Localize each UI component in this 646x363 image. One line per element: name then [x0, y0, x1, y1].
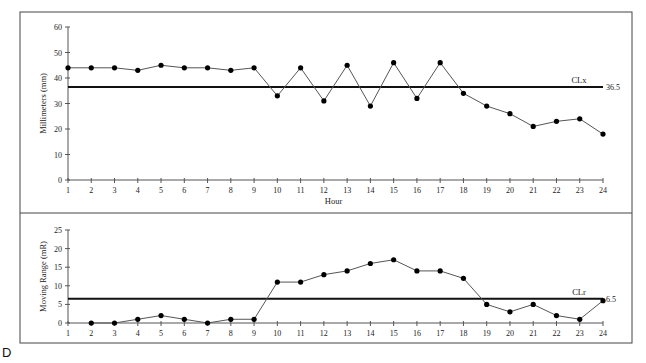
data-point — [298, 279, 303, 284]
data-point — [368, 261, 373, 266]
x-tick-label: 6 — [182, 186, 186, 195]
data-point — [321, 98, 326, 103]
y-tick-label: 25 — [54, 226, 62, 235]
x-tick-label: 19 — [483, 186, 491, 195]
x-tick-label: 7 — [206, 186, 210, 195]
data-point — [205, 65, 210, 70]
data-point — [484, 103, 489, 108]
data-point — [298, 65, 303, 70]
x-tick-label: 10 — [273, 186, 281, 195]
x-tick-label: 7 — [206, 329, 210, 338]
x-tick-label: 1 — [66, 329, 70, 338]
data-point — [368, 103, 373, 108]
x-tick-label: 11 — [297, 186, 305, 195]
figure-frame — [20, 12, 632, 343]
x-axis-title: Hour — [325, 196, 343, 206]
data-point — [182, 65, 187, 70]
data-point — [531, 302, 536, 307]
x-tick-label: 18 — [459, 329, 467, 338]
y-tick-label: 20 — [54, 245, 62, 254]
data-point — [65, 65, 70, 70]
x-tick-label: 24 — [599, 186, 607, 195]
data-point — [158, 313, 163, 318]
x-tick-label: 11 — [297, 329, 305, 338]
x-tick-label: 9 — [252, 329, 256, 338]
data-point — [414, 96, 419, 101]
panel-label: D — [2, 345, 11, 360]
data-point — [135, 68, 140, 73]
data-point — [438, 268, 443, 273]
data-point — [531, 124, 536, 129]
x-tick-label: 15 — [390, 186, 398, 195]
x-tick-label: 14 — [366, 329, 374, 338]
data-point — [414, 268, 419, 273]
x-tick-label: 4 — [136, 186, 140, 195]
y-tick-label: 10 — [54, 151, 62, 160]
y-tick-label: 50 — [54, 49, 62, 58]
y-tick-label: 60 — [54, 23, 62, 32]
data-point — [135, 317, 140, 322]
data-point — [600, 298, 605, 303]
x-tick-label: 12 — [320, 186, 328, 195]
x-tick-label: 17 — [436, 186, 444, 195]
data-point — [228, 317, 233, 322]
x-tick-label: 23 — [576, 186, 584, 195]
x-tick-label: 1 — [66, 186, 70, 195]
data-point — [251, 65, 256, 70]
x-tick-label: 5 — [159, 186, 163, 195]
data-point — [391, 257, 396, 262]
data-point — [321, 272, 326, 277]
data-point — [275, 93, 280, 98]
x-tick-label: 4 — [136, 329, 140, 338]
control-chart-figure: 0102030405060123456789101112131415161718… — [0, 0, 646, 363]
x-tick-label: 12 — [320, 329, 328, 338]
x-tick-label: 13 — [343, 186, 351, 195]
y-tick-label: 5 — [58, 300, 62, 309]
data-point — [461, 276, 466, 281]
data-point — [89, 65, 94, 70]
x-tick-label: 17 — [436, 329, 444, 338]
x-tick-label: 21 — [529, 186, 537, 195]
y-tick-label: 40 — [54, 74, 62, 83]
moving-range-chart: 0510152025123456789101112131415161718192… — [38, 226, 616, 338]
center-line-label: CLr — [572, 287, 586, 297]
x-tick-label: 8 — [229, 186, 233, 195]
series-line — [68, 63, 603, 134]
x-tick-label: 22 — [552, 329, 560, 338]
center-line-value: 36.5 — [606, 83, 620, 92]
data-point — [275, 279, 280, 284]
y-tick-label: 30 — [54, 100, 62, 109]
center-line-label: CLx — [571, 75, 587, 85]
x-tick-label: 21 — [529, 329, 537, 338]
data-point — [112, 65, 117, 70]
x-tick-label: 15 — [390, 329, 398, 338]
data-point — [345, 268, 350, 273]
x-tick-label: 8 — [229, 329, 233, 338]
data-point — [484, 302, 489, 307]
data-point — [600, 132, 605, 137]
x-tick-label: 2 — [89, 186, 93, 195]
x-tick-label: 6 — [182, 329, 186, 338]
data-point — [577, 317, 582, 322]
y-tick-label: 10 — [54, 282, 62, 291]
y-tick-label: 20 — [54, 125, 62, 134]
x-tick-label: 20 — [506, 186, 514, 195]
x-tick-label: 14 — [366, 186, 374, 195]
center-line-value: 6.5 — [606, 295, 616, 304]
data-point — [461, 91, 466, 96]
y-tick-label: 0 — [58, 319, 62, 328]
data-point — [507, 309, 512, 314]
data-point — [554, 313, 559, 318]
data-point — [158, 63, 163, 68]
x-tick-label: 22 — [552, 186, 560, 195]
data-point — [507, 111, 512, 116]
data-point — [182, 317, 187, 322]
data-point — [228, 68, 233, 73]
data-point — [205, 320, 210, 325]
x-tick-label: 19 — [483, 329, 491, 338]
data-point — [89, 320, 94, 325]
x-tick-label: 16 — [413, 329, 421, 338]
data-point — [112, 320, 117, 325]
x-tick-label: 16 — [413, 186, 421, 195]
data-point — [577, 116, 582, 121]
